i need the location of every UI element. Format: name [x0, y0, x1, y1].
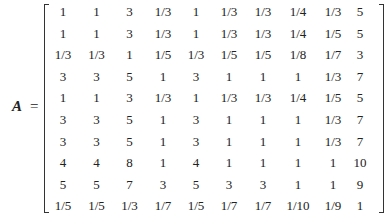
- matrix-cell: 9: [350, 174, 370, 196]
- matrix-cell: 3: [146, 174, 180, 196]
- matrix-cell: 3: [113, 23, 146, 45]
- matrix-cell: 3: [180, 131, 212, 153]
- matrix-cell: 1/8: [280, 44, 316, 66]
- matrix-cell: 5: [350, 23, 370, 45]
- matrix-cell: 1/7: [246, 195, 280, 217]
- matrix-cell: 5: [113, 109, 146, 131]
- matrix-cell: 1/4: [280, 87, 316, 109]
- matrix-cell: 1/5: [180, 195, 212, 217]
- matrix-cell: 3: [46, 131, 80, 153]
- equals-sign: =: [30, 98, 38, 114]
- matrix-cell: 1/3: [180, 44, 212, 66]
- matrix-cell: 3: [212, 174, 246, 196]
- matrix: 1131/311/31/31/41/351131/311/31/31/41/55…: [46, 1, 370, 217]
- matrix-cell: 1: [280, 152, 316, 174]
- matrix-cell: 1/4: [280, 23, 316, 45]
- matrix-cell: 1/3: [246, 1, 280, 23]
- matrix-cell: 1: [80, 87, 113, 109]
- matrix-cell: 4: [80, 152, 113, 174]
- matrix-cell: 1/7: [146, 195, 180, 217]
- matrix-cell: 1: [212, 131, 246, 153]
- matrix-cell: 3: [46, 109, 80, 131]
- matrix-cell: 1: [80, 23, 113, 45]
- matrix-cell: 1: [316, 152, 350, 174]
- matrix-cell: 1/3: [80, 44, 113, 66]
- matrix-cell: 5: [46, 174, 80, 196]
- matrix-label: A=: [12, 96, 38, 116]
- matrix-cell: 3: [180, 109, 212, 131]
- matrix-cell: 1: [46, 23, 80, 45]
- matrix-cell: 1: [280, 66, 316, 88]
- matrix-row: 1131/311/31/31/41/55: [46, 87, 370, 109]
- matrix-cell: 1/5: [46, 195, 80, 217]
- matrix-cell: 1/7: [212, 195, 246, 217]
- matrix-cell: 1/3: [146, 1, 180, 23]
- matrix-cell: 1/3: [212, 87, 246, 109]
- matrix-cell: 1: [113, 44, 146, 66]
- matrix-cell: 1: [246, 131, 280, 153]
- matrix-cell: 5: [180, 174, 212, 196]
- matrix-cell: 1: [212, 109, 246, 131]
- matrix-cell: 3: [246, 174, 280, 196]
- matrix-row: 1131/311/31/31/41/35: [46, 1, 370, 23]
- matrix-cell: 7: [350, 66, 370, 88]
- matrix-row: 1/31/311/51/31/51/51/81/73: [46, 44, 370, 66]
- matrix-cell: 1/3: [212, 23, 246, 45]
- matrix-cell: 8: [113, 152, 146, 174]
- matrix-cell: 7: [350, 131, 370, 153]
- matrix-cell: 5: [113, 131, 146, 153]
- matrix-cell: 1: [46, 87, 80, 109]
- matrix-cell: 1: [280, 174, 316, 196]
- matrix-row: 5573533119: [46, 174, 370, 196]
- matrix-row: 335131111/37: [46, 66, 370, 88]
- matrix-cell: 5: [350, 1, 370, 23]
- matrix-cell: 5: [80, 174, 113, 196]
- matrix-cell: 1: [280, 109, 316, 131]
- matrix-cell: 1: [180, 23, 212, 45]
- matrix-variable: A: [12, 98, 22, 114]
- matrix-cell: 1/3: [246, 87, 280, 109]
- matrix-cell: 1/5: [212, 44, 246, 66]
- matrix-cell: 1: [246, 66, 280, 88]
- matrix-cell: 1/5: [246, 44, 280, 66]
- matrix-cell: 1: [146, 66, 180, 88]
- matrix-row: 1131/311/31/31/41/55: [46, 23, 370, 45]
- matrix-cell: 1/7: [316, 44, 350, 66]
- matrix-cell: 3: [46, 66, 80, 88]
- matrix-row: 335131111/37: [46, 131, 370, 153]
- matrix-cell: 1/5: [316, 23, 350, 45]
- matrix-cell: 1/3: [316, 66, 350, 88]
- matrix-cell: 1/3: [316, 131, 350, 153]
- matrix-row: 335131111/37: [46, 109, 370, 131]
- matrix-cell: 3: [80, 131, 113, 153]
- matrix-cell: 1/3: [212, 1, 246, 23]
- matrix-cell: 1/3: [316, 109, 350, 131]
- matrix-cell: 1: [246, 152, 280, 174]
- matrix-cell: 1/5: [146, 44, 180, 66]
- matrix-cell: 7: [113, 174, 146, 196]
- matrix-cell: 1: [146, 152, 180, 174]
- matrix-cell: 1: [212, 66, 246, 88]
- matrix-cell: 1: [80, 1, 113, 23]
- matrix-cell: 1/9: [316, 195, 350, 217]
- matrix-cell: 3: [180, 66, 212, 88]
- matrix-cell: 1: [146, 131, 180, 153]
- matrix-cell: 1: [350, 195, 370, 217]
- matrix-cell: 3: [80, 66, 113, 88]
- matrix-cell: 1: [46, 1, 80, 23]
- matrix-cell: 4: [46, 152, 80, 174]
- matrix-cell: 1/3: [146, 87, 180, 109]
- matrix-cell: 1: [280, 131, 316, 153]
- matrix-cell: 1: [146, 109, 180, 131]
- matrix-row: 44814111110: [46, 152, 370, 174]
- matrix-cell: 1: [246, 109, 280, 131]
- matrix-cell: 3: [350, 44, 370, 66]
- matrix-cell: 1/3: [113, 195, 146, 217]
- matrix-cell: 1/3: [46, 44, 80, 66]
- matrix-cell: 1: [316, 174, 350, 196]
- matrix-cell: 5: [113, 66, 146, 88]
- matrix-cell: 1: [180, 87, 212, 109]
- matrix-cell: 1/3: [246, 23, 280, 45]
- matrix-cell: 3: [80, 109, 113, 131]
- matrix-row: 1/51/51/31/71/51/71/71/101/91: [46, 195, 370, 217]
